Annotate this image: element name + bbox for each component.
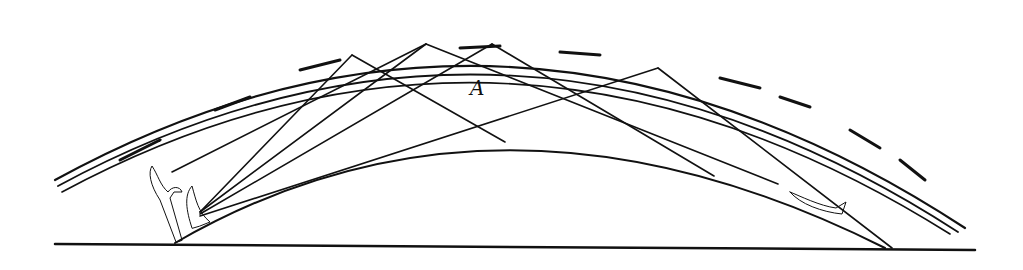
ionosphere-dash-3 bbox=[300, 60, 340, 70]
region-label-a: A bbox=[470, 78, 484, 98]
ionosphere-dash-4 bbox=[460, 46, 500, 48]
ray-3 bbox=[200, 44, 426, 212]
ionosphere-dash-5 bbox=[560, 52, 600, 55]
ray-1 bbox=[200, 55, 352, 212]
ray-4 bbox=[172, 44, 426, 172]
ionosphere-dash-9 bbox=[900, 160, 925, 180]
ionosphere-propagation-diagram bbox=[0, 0, 1023, 270]
ionosphere-layer-1 bbox=[55, 66, 965, 228]
aircraft-icon bbox=[790, 192, 846, 214]
ionosphere-layer-2 bbox=[58, 75, 958, 232]
ionosphere-dash-8 bbox=[850, 130, 880, 148]
ionosphere-dash-7 bbox=[780, 97, 810, 107]
ray-9 bbox=[426, 44, 778, 184]
ionosphere-dashes bbox=[120, 46, 925, 180]
ground-line bbox=[55, 244, 975, 250]
radio-rays bbox=[172, 44, 892, 248]
earth-curve bbox=[175, 150, 885, 248]
ray-8 bbox=[658, 68, 892, 248]
ray-5 bbox=[200, 44, 492, 214]
ionosphere-layer-3 bbox=[62, 83, 950, 234]
receiving-antenna-icon bbox=[150, 166, 182, 242]
ionosphere-dash-1 bbox=[120, 140, 160, 160]
ionosphere-dash-6 bbox=[720, 78, 760, 88]
